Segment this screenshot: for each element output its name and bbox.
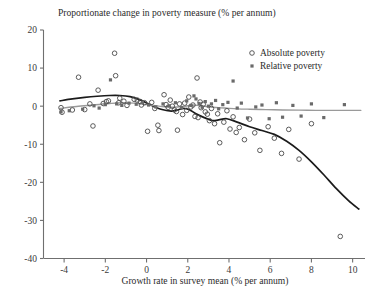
data-point-relative bbox=[291, 104, 294, 107]
data-point-absolute bbox=[117, 96, 122, 101]
data-point-relative bbox=[59, 110, 62, 113]
y-axis: 20100-10-20-30-40 bbox=[24, 25, 43, 264]
data-point-absolute bbox=[297, 157, 302, 162]
data-point-absolute bbox=[338, 234, 343, 239]
data-point-absolute bbox=[222, 120, 227, 125]
data-point-absolute bbox=[180, 112, 185, 117]
data-point-absolute bbox=[168, 98, 173, 103]
data-point-absolute bbox=[258, 148, 263, 153]
x-tick-label: 6 bbox=[268, 265, 273, 275]
data-point-relative bbox=[120, 104, 123, 107]
data-point-absolute bbox=[186, 95, 191, 100]
data-point-absolute bbox=[217, 140, 222, 145]
data-point-relative bbox=[310, 102, 313, 105]
data-point-absolute bbox=[252, 131, 257, 136]
data-point-relative bbox=[98, 106, 101, 109]
x-axis-title: Growth rate in survey mean (% per annum) bbox=[121, 275, 288, 287]
x-tick-label: 8 bbox=[309, 265, 314, 275]
data-point-absolute bbox=[309, 121, 314, 126]
data-points-layer bbox=[59, 51, 346, 239]
data-point-absolute bbox=[242, 137, 247, 142]
data-point-relative bbox=[192, 94, 195, 97]
data-point-relative bbox=[141, 101, 144, 104]
data-point-absolute bbox=[212, 121, 217, 126]
data-point-relative bbox=[232, 79, 235, 82]
data-point-absolute bbox=[113, 73, 118, 78]
data-point-absolute bbox=[237, 125, 242, 130]
data-point-relative bbox=[214, 99, 217, 102]
data-point-relative bbox=[275, 101, 278, 104]
data-point-relative bbox=[104, 103, 107, 106]
data-point-relative bbox=[300, 114, 303, 117]
y-tick-label: -40 bbox=[24, 254, 37, 264]
x-axis: -4-20246810 bbox=[44, 259, 366, 276]
x-tick-label: -4 bbox=[60, 265, 68, 275]
data-point-relative bbox=[210, 102, 213, 105]
data-point-absolute bbox=[228, 127, 233, 132]
x-tick-label: 0 bbox=[144, 265, 149, 275]
y-tick-label: 10 bbox=[28, 63, 38, 73]
y-tick-label: 0 bbox=[32, 102, 37, 112]
x-tick-label: 2 bbox=[185, 265, 190, 275]
data-point-absolute bbox=[177, 102, 182, 107]
data-point-absolute bbox=[175, 128, 180, 133]
data-point-absolute bbox=[145, 129, 150, 134]
data-point-relative bbox=[168, 104, 171, 107]
data-point-absolute bbox=[91, 124, 96, 129]
scatter-plot-svg: Proportionate change in poverty measure … bbox=[0, 0, 373, 297]
data-point-relative bbox=[226, 101, 229, 104]
data-point-relative bbox=[135, 103, 138, 106]
x-tick-label: -2 bbox=[101, 265, 109, 275]
data-point-absolute bbox=[156, 123, 161, 128]
data-point-absolute bbox=[157, 128, 162, 133]
data-point-relative bbox=[204, 100, 207, 103]
data-point-relative bbox=[201, 106, 204, 109]
legend-marker-relative bbox=[250, 64, 253, 67]
data-point-absolute bbox=[96, 88, 101, 93]
data-point-absolute bbox=[286, 127, 291, 132]
legend-label: Relative poverty bbox=[260, 61, 323, 71]
y-tick-group: 20100-10-20-30-40 bbox=[24, 25, 43, 264]
chart-title: Proportionate change in poverty measure … bbox=[58, 7, 276, 19]
chart-legend: Absolute povertyRelative poverty bbox=[250, 48, 325, 71]
data-point-relative bbox=[147, 103, 150, 106]
data-point-absolute bbox=[231, 115, 236, 120]
y-tick-label: -10 bbox=[24, 140, 37, 150]
data-point-relative bbox=[268, 117, 271, 120]
data-point-relative bbox=[217, 107, 220, 110]
data-point-relative bbox=[322, 116, 325, 119]
chart-figure: Proportionate change in poverty measure … bbox=[0, 0, 373, 297]
legend-marker-absolute bbox=[250, 51, 255, 56]
data-point-absolute bbox=[272, 136, 277, 141]
y-tick-label: -30 bbox=[24, 216, 37, 226]
data-point-absolute bbox=[266, 124, 271, 129]
y-tick-label: -20 bbox=[24, 178, 37, 188]
data-point-relative bbox=[198, 102, 201, 105]
data-point-absolute bbox=[215, 111, 220, 116]
data-point-relative bbox=[189, 104, 192, 107]
data-point-absolute bbox=[112, 51, 117, 56]
data-point-relative bbox=[343, 103, 346, 106]
legend-label: Absolute poverty bbox=[260, 48, 325, 58]
y-tick-label: 20 bbox=[28, 25, 38, 35]
data-point-relative bbox=[115, 102, 118, 105]
data-point-absolute bbox=[162, 92, 167, 97]
data-point-relative bbox=[161, 102, 164, 105]
data-point-relative bbox=[246, 116, 249, 119]
data-point-relative bbox=[281, 116, 284, 119]
data-point-relative bbox=[92, 104, 95, 107]
data-point-relative bbox=[240, 102, 243, 105]
data-point-relative bbox=[127, 102, 130, 105]
data-point-relative bbox=[194, 97, 197, 100]
data-point-relative bbox=[254, 105, 257, 108]
data-point-relative bbox=[154, 105, 157, 108]
data-point-relative bbox=[185, 99, 188, 102]
data-point-relative bbox=[260, 103, 263, 106]
fitted-curves-layer bbox=[60, 95, 361, 209]
x-tick-label: 10 bbox=[348, 265, 358, 275]
data-point-relative bbox=[81, 108, 84, 111]
x-tick-label: 4 bbox=[227, 265, 232, 275]
data-point-absolute bbox=[225, 108, 230, 113]
data-point-absolute bbox=[279, 151, 284, 156]
x-tick-group: -4-20246810 bbox=[60, 259, 357, 276]
